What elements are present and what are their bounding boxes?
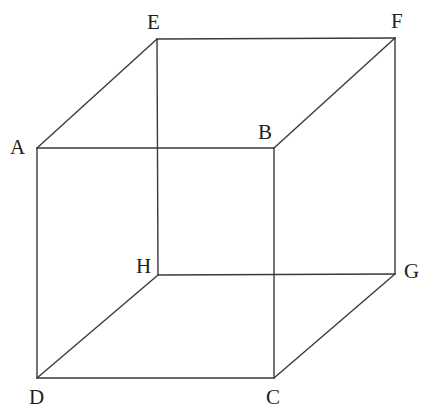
cube-edge-CG: [274, 274, 395, 378]
vertex-label-C: C: [266, 387, 280, 408]
cube-edge-HE: [157, 39, 158, 275]
cube-edge-GH: [158, 274, 395, 275]
cube-edge-DH: [37, 275, 158, 378]
vertex-label-G: G: [404, 261, 419, 282]
cube-wireframe: [0, 0, 428, 416]
vertex-label-E: E: [147, 12, 160, 33]
vertex-label-F: F: [391, 11, 403, 32]
vertex-label-A: A: [10, 137, 25, 158]
cube-figure: A B C D E F G H: [0, 0, 428, 416]
vertex-label-D: D: [29, 387, 44, 408]
cube-edge-AE: [37, 39, 157, 148]
cube-edge-EF: [157, 38, 395, 39]
vertex-label-B: B: [258, 122, 272, 143]
cube-edge-group: [37, 38, 395, 378]
cube-edge-BF: [274, 38, 395, 148]
vertex-label-H: H: [136, 256, 151, 277]
